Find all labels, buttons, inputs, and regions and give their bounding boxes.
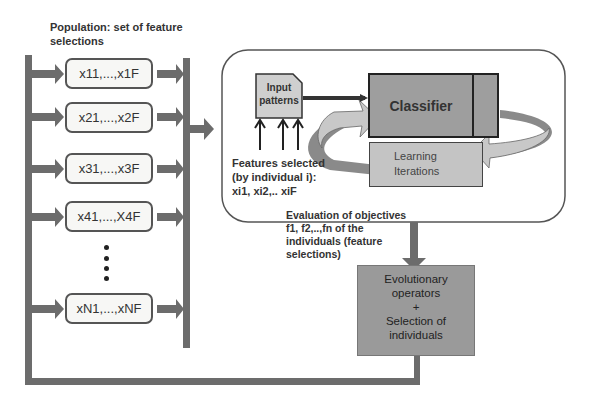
right-bus-line: [183, 58, 190, 348]
arrow-from-individual-1: [157, 64, 184, 84]
input-patterns-label-2: patterns: [255, 94, 303, 107]
individual-label: x31,...,x3F: [79, 161, 140, 176]
individual-box-1: x11,...,x1F: [65, 58, 153, 89]
classifier-box: Classifier: [368, 73, 499, 138]
population-title-line2: selections: [50, 34, 183, 48]
ellipsis-dot: [104, 256, 109, 261]
individual-label: xN1,...,xNF: [76, 301, 141, 316]
arrow-to-individual-2: [32, 107, 64, 127]
bottom-feedback-line: [25, 378, 420, 385]
input-patterns-box: Input patterns: [255, 73, 303, 119]
arrow-to-individual-4: [32, 207, 64, 227]
right-arrows: [157, 64, 184, 319]
individual-box-4: x41,...,X4F: [65, 201, 153, 232]
evolution-label-4: Selection of: [358, 314, 474, 328]
objectives-caption-line1: Evaluation of objectives: [286, 209, 406, 222]
classifier-divider: [472, 75, 474, 136]
input-patterns-label-1: Input: [255, 81, 303, 94]
arrow-from-individual-2: [157, 107, 184, 127]
features-selected-caption: Features selected (by individual i): xi1…: [232, 156, 325, 198]
evolution-label-2: operators: [358, 286, 474, 300]
left-bus-line: [25, 55, 32, 385]
individual-label: x21,...,x2F: [79, 110, 140, 125]
arrow-from-individual-4: [157, 207, 184, 227]
evolution-label-plus: +: [358, 300, 474, 314]
evolution-box: Evolutionary operators + Selection of in…: [357, 265, 475, 356]
learning-label-2: Iterations: [394, 164, 482, 179]
objectives-caption-line3: individuals (feature: [286, 235, 406, 248]
evolution-label-5: individuals: [358, 328, 474, 342]
classifier-label: Classifier: [370, 75, 472, 136]
individual-label: x11,...,x1F: [79, 66, 139, 81]
ellipsis-dot: [104, 266, 109, 271]
objectives-caption: Evaluation of objectives f1, f2,..,fn of…: [286, 209, 406, 261]
individual-box-2: x21,...,x2F: [65, 102, 153, 133]
individual-box-n: xN1,...,xNF: [65, 293, 153, 324]
evolution-label-1: Evolutionary: [358, 272, 474, 286]
left-arrows: [32, 64, 64, 319]
learning-iterations-box: Learning Iterations: [369, 142, 483, 187]
arrow-to-individual-3: [32, 159, 64, 179]
features-caption-line3: xi1, xi2,.. xiF: [232, 184, 325, 198]
individual-label: x41,...,X4F: [78, 209, 141, 224]
arrow-to-individual-1: [32, 64, 64, 84]
individual-box-3: x31,...,x3F: [65, 153, 153, 184]
features-caption-line1: Features selected: [232, 156, 325, 170]
ellipsis-dot: [104, 276, 109, 281]
features-caption-line2: (by individual i):: [232, 170, 325, 184]
evolution-return-line: [414, 355, 420, 385]
arrow-to-individual-n: [32, 299, 64, 319]
ellipsis-dot: [104, 245, 109, 250]
arrow-from-individual-n: [157, 299, 184, 319]
arrow-from-individual-3: [157, 159, 184, 179]
learning-label-1: Learning: [394, 149, 482, 164]
arrow-to-evaluation: [190, 118, 214, 140]
objectives-caption-line2: f1, f2,..,fn of the: [286, 222, 406, 235]
objectives-caption-line4: selections): [286, 248, 406, 261]
population-title: Population: set of feature selections: [50, 20, 183, 48]
population-title-line1: Population: set of feature: [50, 20, 183, 34]
